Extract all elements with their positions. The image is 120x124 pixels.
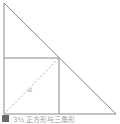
caption-text: 3½ 正方形与三角形 (13, 114, 75, 124)
figure-caption: 3½ 正方形与三角形 (2, 114, 75, 123)
figure-icon (2, 115, 9, 122)
geometry-diagram: a (0, 0, 120, 123)
diagonal-label: a (28, 86, 32, 94)
